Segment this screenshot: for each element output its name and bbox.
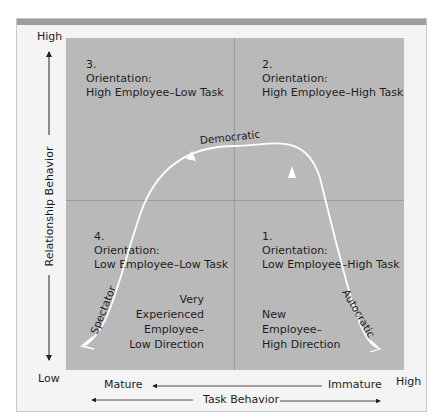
leadership-curve (85, 143, 378, 348)
x-axis-high-label: High (396, 375, 421, 388)
diagram-graphics: Democratic Autocratic Spectator (0, 0, 447, 420)
immature-label: Immature (328, 378, 382, 391)
mature-label: Mature (104, 378, 143, 391)
y-axis-low-label: Low (38, 372, 60, 385)
curve-arrow-right (288, 166, 296, 178)
x-axis-title: Task Behavior (203, 393, 279, 406)
spectator-label: Spectator (88, 283, 118, 335)
autocratic-label: Autocratic (340, 287, 377, 340)
y-axis-title: Relationship Behavior (43, 147, 56, 267)
y-axis-high-label: High (37, 30, 62, 43)
democratic-label: Democratic (199, 128, 261, 146)
